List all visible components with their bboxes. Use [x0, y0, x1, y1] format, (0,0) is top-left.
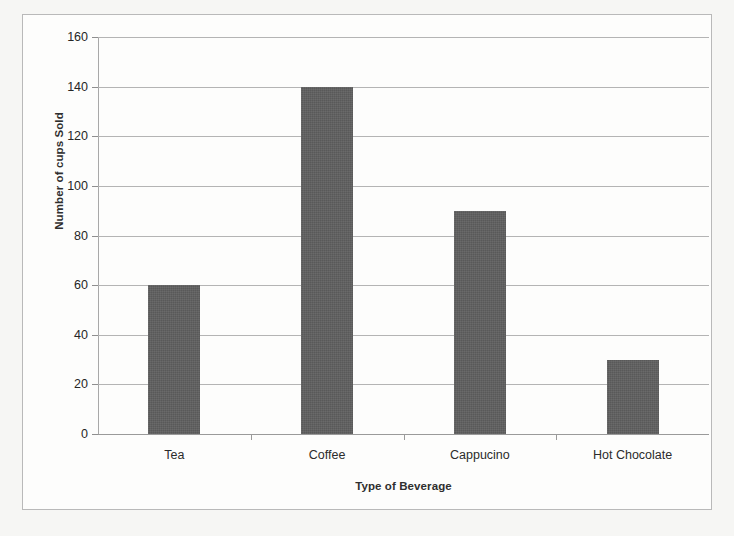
y-axis-tick-label: 100 — [67, 179, 88, 193]
bar — [148, 285, 200, 434]
y-axis-tick-label: 160 — [67, 30, 88, 44]
bar — [454, 211, 506, 434]
y-axis-tick — [92, 384, 98, 385]
y-axis-tick — [92, 136, 98, 137]
y-axis-tick — [92, 186, 98, 187]
x-axis-tick — [556, 434, 557, 440]
y-axis-tick — [92, 434, 98, 435]
y-axis-tick-label: 40 — [74, 328, 88, 342]
plot-area: 160140120100806040200 TeaCoffeeCappucino… — [98, 37, 709, 434]
scanned-page: Number of cups Sold 16014012010080604020… — [0, 0, 734, 536]
gridline — [98, 87, 709, 88]
x-axis-tick-label: Cappucino — [450, 448, 510, 462]
y-axis-tick-label: 60 — [74, 278, 88, 292]
y-axis-tick-label: 0 — [81, 427, 88, 441]
bar — [301, 87, 353, 434]
y-axis-tick — [92, 335, 98, 336]
y-axis-tick-label: 80 — [74, 229, 88, 243]
gridline — [98, 37, 709, 38]
x-axis-tick-label: Coffee — [309, 448, 346, 462]
gridline — [98, 186, 709, 187]
gridline — [98, 236, 709, 237]
y-axis-tick — [92, 236, 98, 237]
bar — [607, 360, 659, 434]
chart-frame: Number of cups Sold 16014012010080604020… — [22, 14, 712, 510]
y-axis-title: Number of cups Sold — [53, 71, 65, 271]
y-axis-tick — [92, 37, 98, 38]
x-axis-tick-label: Hot Chocolate — [593, 448, 672, 462]
y-axis-tick-label: 120 — [67, 129, 88, 143]
y-axis-tick — [92, 285, 98, 286]
x-axis-title: Type of Beverage — [98, 480, 709, 492]
x-axis-tick-label: Tea — [164, 448, 184, 462]
y-axis-tick — [92, 87, 98, 88]
y-axis-tick-label: 140 — [67, 80, 88, 94]
x-axis-tick — [251, 434, 252, 440]
x-axis-tick — [404, 434, 405, 440]
gridline — [98, 136, 709, 137]
y-axis-tick-label: 20 — [74, 377, 88, 391]
